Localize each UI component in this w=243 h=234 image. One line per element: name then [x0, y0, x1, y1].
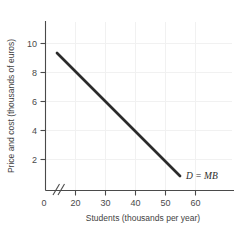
y-tick-label-10: 10: [27, 39, 37, 49]
y-tick-label-8: 8: [32, 68, 37, 78]
demand-curve-label: D = MB: [185, 171, 218, 181]
y-tick-label-4: 4: [32, 126, 37, 136]
x-tick-label-30: 30: [100, 198, 110, 208]
x-tick-label-0: 0: [41, 198, 46, 208]
x-tick-label-60: 60: [190, 198, 200, 208]
y-axis-ticks: [41, 44, 46, 160]
x-axis-ticks: [76, 191, 196, 196]
chart-canvas: 10 8 6 4 2 0 20 30 40 50 60 D = MB Stude…: [0, 0, 243, 234]
demand-marginal-benefit-chart: 10 8 6 4 2 0 20 30 40 50 60 D = MB Stude…: [0, 0, 243, 234]
x-tick-label-50: 50: [160, 198, 170, 208]
x-axis-title: Students (thousands per year): [86, 213, 201, 223]
y-axis-title: Price and cost (thousands of euros): [6, 39, 16, 173]
x-tick-label-20: 20: [70, 198, 80, 208]
y-tick-label-2: 2: [32, 155, 37, 165]
y-tick-label-6: 6: [32, 97, 37, 107]
x-axis-break-icon: [53, 184, 65, 195]
x-tick-label-40: 40: [130, 198, 140, 208]
grid-lines: [46, 22, 232, 190]
